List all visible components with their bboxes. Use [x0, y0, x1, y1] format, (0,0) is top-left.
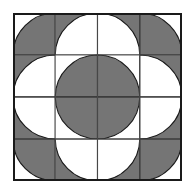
pattern-tile [140, 13, 182, 55]
pattern-tile [98, 139, 140, 181]
quarter-disc-pattern-svg [13, 13, 182, 181]
pattern-tile [55, 13, 97, 55]
pattern-tile [13, 139, 55, 181]
pattern-tile [13, 55, 55, 97]
pattern-tile [140, 97, 182, 139]
pattern-tile [98, 97, 140, 139]
pattern-tile [140, 139, 182, 181]
pattern-tile [13, 13, 55, 55]
pattern-tile [55, 139, 97, 181]
pattern-frame [13, 13, 182, 181]
pattern-tile [55, 97, 97, 139]
pattern-tile [140, 55, 182, 97]
pattern-tile [55, 55, 97, 97]
pattern-tile [13, 97, 55, 139]
pattern-tile [98, 55, 140, 97]
figure-root [0, 0, 196, 194]
pattern-tile [98, 13, 140, 55]
